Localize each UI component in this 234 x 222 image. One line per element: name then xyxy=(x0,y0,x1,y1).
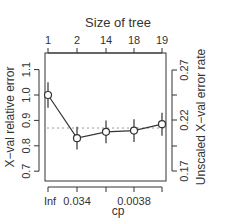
top-tick-label: 18 xyxy=(128,34,140,46)
right-axis: 0.170.220.27 xyxy=(172,59,190,181)
chart-title: Size of tree xyxy=(85,15,151,30)
data-point xyxy=(103,128,110,135)
left-tick-label: 1.1 xyxy=(20,62,32,77)
cp-plot: Size of tree 12141819 Inf0.0340.0038 0.7… xyxy=(0,0,234,222)
y-axis-label: X−val relative error xyxy=(3,66,17,167)
y-axis-label-right: Unscaled X−val error rate xyxy=(194,48,208,185)
left-tick-label: 0.9 xyxy=(20,113,32,128)
left-axis: 0.70.80.91.01.1 xyxy=(20,62,39,179)
right-tick-label: 0.22 xyxy=(178,109,190,130)
data-series xyxy=(45,82,166,149)
top-axis: 12141819 xyxy=(45,34,168,53)
bottom-tick-label: Inf xyxy=(44,195,57,207)
top-tick-label: 19 xyxy=(156,34,168,46)
bottom-tick-label: 0.034 xyxy=(63,195,91,207)
right-tick-label: 0.27 xyxy=(178,59,190,80)
data-point xyxy=(131,127,138,134)
top-tick-label: 2 xyxy=(74,34,80,46)
data-point xyxy=(74,135,81,142)
right-tick-label: 0.17 xyxy=(178,160,190,181)
top-tick-label: 14 xyxy=(100,34,112,46)
left-tick-label: 0.7 xyxy=(20,164,32,179)
x-axis-label: cp xyxy=(112,204,125,218)
data-point xyxy=(159,121,166,128)
bottom-axis: Inf0.0340.0038 xyxy=(44,187,162,207)
left-tick-label: 1.0 xyxy=(20,87,32,102)
top-tick-label: 1 xyxy=(45,34,51,46)
left-tick-label: 0.8 xyxy=(20,138,32,153)
data-point xyxy=(45,92,52,99)
